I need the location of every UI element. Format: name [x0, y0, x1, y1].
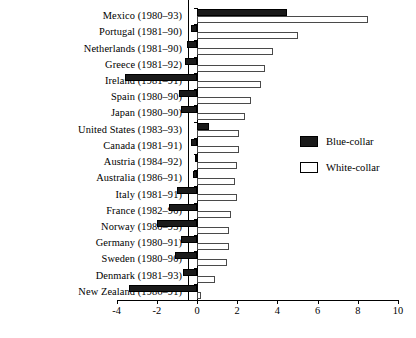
x-axis-line: [117, 300, 398, 301]
x-axis-tick-label: 0: [185, 305, 209, 316]
category-label: Italy (1981–91): [116, 189, 182, 200]
legend-swatch-white-collar: [300, 162, 318, 173]
bar-white-collar: [197, 130, 239, 137]
bar-blue-collar: [129, 285, 197, 292]
bar-white-collar: [197, 162, 237, 169]
legend-item-white-collar: White-collar: [300, 157, 412, 177]
chart-legend: Blue-collar White-collar: [300, 131, 412, 183]
bar-white-collar: [197, 276, 215, 283]
bar-blue-collar: [175, 252, 197, 259]
x-axis-tick-label: -4: [105, 305, 129, 316]
category-axis-labels: Mexico (1980–93)Portugal (1981–90)Nether…: [0, 0, 188, 300]
x-axis-tick-label: 4: [265, 305, 289, 316]
bar-white-collar: [197, 146, 239, 153]
x-axis-tick-label: 10: [386, 305, 410, 316]
legend-swatch-blue-collar: [300, 136, 318, 147]
category-label: Sweden (1980–90): [102, 253, 182, 264]
bar-white-collar: [197, 16, 368, 23]
category-label: United States (1983–93): [78, 124, 182, 135]
bar-blue-collar: [191, 139, 197, 146]
bar-white-collar: [197, 194, 237, 201]
bar-white-collar: [197, 48, 273, 55]
chart-container: Mexico (1980–93)Portugal (1981–90)Nether…: [0, 0, 416, 338]
category-label: Australia (1986–91): [96, 172, 182, 183]
bar-blue-collar: [193, 171, 197, 178]
category-label: Mexico (1980–93): [103, 10, 182, 21]
x-axis-tick: [117, 300, 118, 304]
category-label: Netherlands (1981–90): [84, 43, 182, 54]
x-axis-tick-label: 8: [346, 305, 370, 316]
bar-white-collar: [197, 178, 235, 185]
x-axis-tick: [197, 300, 198, 304]
bar-blue-collar: [185, 58, 197, 65]
bar-white-collar: [197, 211, 231, 218]
x-axis-tick-label: 2: [225, 305, 249, 316]
bar-blue-collar: [197, 9, 287, 16]
legend-label-white-collar: White-collar: [326, 162, 380, 173]
bar-blue-collar: [181, 106, 197, 113]
category-label: Japan (1980–90): [111, 107, 182, 118]
x-axis-tick: [398, 300, 399, 304]
legend-label-blue-collar: Blue-collar: [326, 136, 374, 147]
x-axis-tick: [318, 300, 319, 304]
category-label: Austria (1984–92): [104, 156, 182, 167]
bar-blue-collar: [195, 155, 197, 162]
x-axis-tick: [237, 300, 238, 304]
category-label: Greece (1981–92): [105, 59, 182, 70]
bar-white-collar: [197, 97, 251, 104]
bar-blue-collar: [197, 123, 209, 130]
bar-white-collar: [197, 65, 265, 72]
x-axis-tick: [358, 300, 359, 304]
category-label: Germany (1980–91): [96, 237, 182, 248]
category-label: Spain (1980–90): [111, 91, 182, 102]
bar-white-collar: [197, 227, 229, 234]
bar-white-collar: [197, 259, 227, 266]
bar-blue-collar: [177, 187, 197, 194]
bar-white-collar: [197, 292, 201, 299]
x-axis-tick-label: 6: [306, 305, 330, 316]
bar-blue-collar: [191, 25, 197, 32]
x-axis-tick: [277, 300, 278, 304]
legend-item-blue-collar: Blue-collar: [300, 131, 412, 151]
bar-white-collar: [197, 113, 245, 120]
x-axis-tick: [157, 300, 158, 304]
category-label: Portugal (1981–90): [99, 26, 182, 37]
bar-white-collar: [197, 81, 261, 88]
bar-blue-collar: [157, 220, 197, 227]
bar-white-collar: [197, 243, 229, 250]
x-axis-tick-label: -2: [145, 305, 169, 316]
bar-blue-collar: [169, 204, 197, 211]
category-label: Denmark (1981–93): [96, 270, 182, 281]
bar-blue-collar: [187, 41, 197, 48]
bar-blue-collar: [125, 74, 197, 81]
bar-blue-collar: [179, 90, 197, 97]
category-label: Canada (1981–91): [103, 140, 182, 151]
bar-blue-collar: [181, 236, 197, 243]
bar-blue-collar: [183, 269, 197, 276]
bar-white-collar: [197, 32, 298, 39]
